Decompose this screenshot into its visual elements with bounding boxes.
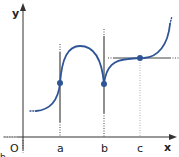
- tick-label-a: a: [57, 142, 64, 155]
- corner-label: b: [0, 152, 6, 157]
- point-c: [137, 55, 143, 61]
- y-axis-label: y: [12, 7, 19, 20]
- point-a: [57, 80, 63, 86]
- x-axis: [3, 134, 177, 140]
- x-axis-label: x: [164, 141, 171, 154]
- function-graph: y x O a b c b: [0, 0, 179, 157]
- y-axis: [20, 3, 26, 153]
- x-axis-arrow-icon: [169, 134, 177, 140]
- point-b: [101, 81, 107, 87]
- tick-label-b: b: [101, 142, 108, 155]
- origin-label: O: [10, 142, 19, 155]
- tick-label-c: c: [137, 142, 143, 155]
- y-axis-arrow-icon: [20, 3, 26, 11]
- function-curve: [30, 16, 172, 111]
